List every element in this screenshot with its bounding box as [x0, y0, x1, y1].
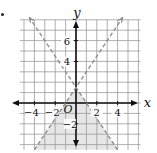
x-axis-arrow-right-icon: [131, 100, 138, 106]
y-tick-label: 6: [64, 36, 70, 47]
x-tick-label: −4: [24, 107, 39, 118]
x-tick-label: 4: [114, 107, 120, 118]
x-axis-arrow-left-icon: [12, 100, 19, 106]
x-tick-label: −2: [45, 107, 60, 118]
x-axis-label: x: [144, 95, 152, 110]
y-tick-label: −2: [63, 119, 78, 130]
origin-label: O: [63, 103, 72, 116]
y-axis-arrow-up-icon: [73, 21, 79, 28]
y-axis-label: y: [72, 5, 81, 20]
x-tick-label: 2: [94, 107, 100, 118]
inequality-graph: xyO−4−22464−2: [0, 0, 157, 153]
y-tick-label: 4: [64, 56, 70, 67]
